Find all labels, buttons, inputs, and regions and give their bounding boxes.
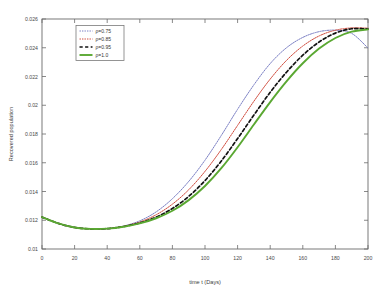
y-tick-label: 0.016 (25, 160, 38, 166)
y-tick-label: 0.024 (25, 45, 38, 51)
x-axis-title: time t (Days) (189, 279, 221, 285)
x-tick-label: 0 (41, 255, 44, 261)
x-tick-label: 120 (233, 255, 242, 261)
y-tick-label: 0.01 (28, 246, 38, 252)
line-chart: 020406080100120140160180200 0.010.0120.0… (0, 0, 390, 294)
legend-label: ρ=0.75 (96, 28, 112, 34)
chart-screenshot: 020406080100120140160180200 0.010.0120.0… (0, 0, 390, 294)
x-tick-label: 140 (266, 255, 275, 261)
x-tick-label: 160 (298, 255, 307, 261)
y-tick-label: 0.012 (25, 217, 38, 223)
y-axis-title: Recovered population (8, 107, 14, 161)
legend-label: ρ=1.0 (96, 52, 109, 58)
y-tick-label: 0.022 (25, 74, 38, 80)
x-tick-label: 60 (137, 255, 143, 261)
x-tick-label: 180 (331, 255, 340, 261)
legend-label: ρ=0.95 (96, 44, 112, 50)
y-tick-label: 0.018 (25, 131, 38, 137)
chart-background (0, 0, 390, 294)
legend-label: ρ=0.85 (96, 36, 112, 42)
y-tick-label: 0.02 (28, 102, 38, 108)
x-tick-label: 200 (364, 255, 373, 261)
figure-canvas: 020406080100120140160180200 0.010.0120.0… (0, 0, 390, 294)
y-tick-label: 0.026 (25, 16, 38, 22)
x-tick-label: 100 (201, 255, 210, 261)
x-tick-label: 40 (104, 255, 110, 261)
y-tick-label: 0.014 (25, 189, 38, 195)
chart-legend: ρ=0.75ρ=0.85ρ=0.95ρ=1.0 (76, 26, 124, 61)
x-tick-label: 80 (170, 255, 176, 261)
x-tick-label: 20 (72, 255, 78, 261)
